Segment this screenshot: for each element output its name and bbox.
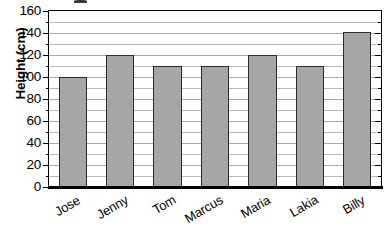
y-axis-major-tick <box>43 33 49 34</box>
y-axis-right-tick <box>378 88 382 89</box>
bar <box>59 77 87 187</box>
y-axis-right-tick <box>375 121 381 122</box>
y-axis-major-tick <box>43 55 49 56</box>
y-axis-major-tick <box>43 77 49 78</box>
y-axis-minor-tick <box>46 154 50 155</box>
y-axis-tick-label: 60 <box>27 114 41 128</box>
y-axis-minor-tick <box>46 88 50 89</box>
y-axis-tick-label: 20 <box>27 158 41 172</box>
cropped-title-remnant <box>74 0 87 3</box>
y-axis-right-tick <box>378 154 382 155</box>
y-axis-right-tick <box>375 165 381 166</box>
y-axis-major-tick <box>43 121 49 122</box>
gridline <box>49 33 381 34</box>
y-axis-tick-label: 100 <box>19 70 41 84</box>
x-axis-tick-label: Marcus <box>182 192 225 226</box>
plot-area: 020406080100120140160 <box>48 10 382 188</box>
y-axis-tick-label: 160 <box>19 4 41 18</box>
y-axis-minor-tick <box>46 44 50 45</box>
x-axis-baseline <box>48 186 383 189</box>
bar <box>248 55 276 187</box>
y-axis-right-tick <box>375 55 381 56</box>
y-axis-major-tick <box>43 11 49 12</box>
bar <box>106 55 134 187</box>
gridline <box>49 22 381 23</box>
x-axis-tick-label: Lakia <box>287 192 321 220</box>
bar-chart: Height (cm) 020406080100120140160 JoseJe… <box>0 0 390 243</box>
y-axis-minor-tick <box>46 176 50 177</box>
y-axis-right-tick <box>378 110 382 111</box>
bar <box>201 66 229 187</box>
y-axis-tick-label: 140 <box>19 26 41 40</box>
y-axis-minor-tick <box>46 110 50 111</box>
bar <box>296 66 324 187</box>
y-axis-major-tick <box>43 99 49 100</box>
x-axis-tick-label: Billy <box>340 192 367 216</box>
y-axis-tick-label: 0 <box>34 180 41 194</box>
y-axis-right-tick <box>378 132 382 133</box>
gridline <box>49 55 381 56</box>
y-axis-minor-tick <box>46 66 50 67</box>
y-axis-major-tick <box>43 165 49 166</box>
y-axis-tick-label: 40 <box>27 136 41 150</box>
y-axis-right-tick <box>375 77 381 78</box>
gridline <box>49 44 381 45</box>
bar <box>343 32 371 187</box>
y-axis-minor-tick <box>46 22 50 23</box>
y-axis-tick-label: 80 <box>27 92 41 106</box>
y-axis-right-tick <box>378 22 382 23</box>
y-axis-tick-label: 120 <box>19 48 41 62</box>
y-axis-right-tick <box>378 44 382 45</box>
bar <box>153 66 181 187</box>
y-axis-minor-tick <box>46 132 50 133</box>
y-axis-right-tick <box>375 33 381 34</box>
y-axis-right-tick <box>378 176 382 177</box>
x-axis-tick-label: Jose <box>52 192 83 218</box>
x-axis-tick-label: Jenny <box>94 192 131 222</box>
y-axis-title: Height (cm) <box>13 0 28 129</box>
x-axis-tick-label: Maria <box>238 192 273 221</box>
y-axis-right-tick <box>375 99 381 100</box>
y-axis-right-tick <box>378 66 382 67</box>
y-axis-major-tick <box>43 143 49 144</box>
y-axis-right-tick <box>375 143 381 144</box>
x-axis-tick-label: Tom <box>150 192 178 217</box>
